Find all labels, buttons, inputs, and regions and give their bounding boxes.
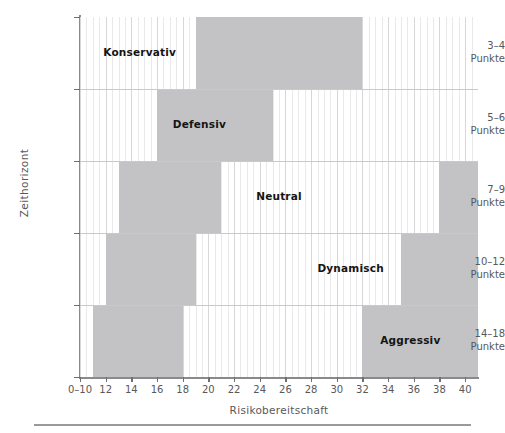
x-tick: [465, 377, 466, 382]
x-tick-label: 30: [330, 384, 343, 395]
y-tick-label: 14–18Punkte: [447, 327, 505, 353]
shaded-band-dynamisch: [106, 233, 196, 305]
y-tick: [74, 233, 80, 234]
x-tick-label: 40: [459, 384, 472, 395]
x-tick: [208, 377, 209, 382]
shaded-band-konservativ: [196, 17, 363, 89]
x-tick-label: 28: [305, 384, 318, 395]
x-tick: [388, 377, 389, 382]
x-tick-label: 24: [253, 384, 266, 395]
y-tick-label: 5–6Punkte: [447, 111, 505, 137]
y-tick: [74, 161, 80, 162]
x-tick-label: 0–10: [68, 384, 92, 395]
x-tick-label: 38: [433, 384, 446, 395]
region-label-dynamisch: Dynamisch: [317, 262, 383, 274]
footer-rule: [34, 424, 471, 426]
x-tick-label: 14: [125, 384, 138, 395]
y-tick: [74, 89, 80, 90]
x-tick: [80, 377, 81, 382]
x-tick: [106, 377, 107, 382]
x-tick-label: 12: [99, 384, 112, 395]
x-tick-label: 22: [228, 384, 241, 395]
x-tick: [337, 377, 338, 382]
region-label-defensiv: Defensiv: [173, 118, 226, 130]
y-tick-label-unit: Punkte: [447, 52, 505, 65]
y-tick-label-range: 10–12: [447, 255, 505, 268]
gridline-horizontal: [80, 161, 478, 162]
x-tick-label: 26: [279, 384, 292, 395]
x-tick: [362, 377, 363, 382]
x-tick-label: 18: [176, 384, 189, 395]
x-tick: [439, 377, 440, 382]
x-tick: [285, 377, 286, 382]
x-tick-label: 36: [407, 384, 420, 395]
plot-area: KonservativDefensivNeutralDynamischAggre…: [80, 17, 478, 377]
y-tick: [74, 17, 80, 18]
gridline-vertical: [80, 17, 81, 377]
y-tick-label-range: 3–4: [447, 39, 505, 52]
region-label-neutral: Neutral: [256, 190, 302, 202]
y-axis-title: Zeithorizont: [18, 123, 30, 243]
gridline-horizontal: [80, 305, 478, 306]
risk-profile-chart: Zeithorizont Risikobereitschaft Konserva…: [0, 0, 505, 433]
x-tick: [414, 377, 415, 382]
y-tick-label: 7–9Punkte: [447, 183, 505, 209]
shaded-band-neutral: [119, 161, 222, 233]
x-tick: [260, 377, 261, 382]
x-tick-label: 20: [202, 384, 215, 395]
x-axis-line: [79, 377, 479, 379]
x-tick: [183, 377, 184, 382]
x-tick-label: 32: [356, 384, 369, 395]
region-label-konservativ: Konservativ: [103, 46, 176, 58]
shaded-band-aggressiv: [93, 305, 183, 377]
x-tick: [157, 377, 158, 382]
gridline-horizontal: [80, 89, 478, 90]
x-axis-title: Risikobereitschaft: [80, 404, 478, 416]
y-tick: [74, 305, 80, 306]
gridline-horizontal: [80, 233, 478, 234]
x-tick: [131, 377, 132, 382]
region-label-aggressiv: Aggressiv: [380, 334, 440, 346]
gridline-vertical: [86, 17, 87, 377]
y-tick-label-range: 14–18: [447, 327, 505, 340]
y-tick-label-range: 7–9: [447, 183, 505, 196]
x-tick: [234, 377, 235, 382]
y-tick-label-unit: Punkte: [447, 196, 505, 209]
y-tick-label-range: 5–6: [447, 111, 505, 124]
y-tick-label-unit: Punkte: [447, 340, 505, 353]
y-tick: [74, 377, 80, 378]
y-tick-label-unit: Punkte: [447, 268, 505, 281]
y-tick-label: 3–4Punkte: [447, 39, 505, 65]
x-tick: [311, 377, 312, 382]
y-tick-label: 10–12Punkte: [447, 255, 505, 281]
x-tick-label: 16: [151, 384, 164, 395]
y-tick-label-unit: Punkte: [447, 124, 505, 137]
x-tick-label: 34: [382, 384, 395, 395]
